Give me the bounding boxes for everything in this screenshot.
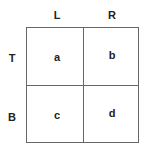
cell-top-left: a	[50, 51, 64, 63]
cell-bottom-right: d	[105, 107, 119, 119]
grid-frame	[26, 27, 139, 143]
column-label-right: R	[105, 9, 119, 21]
column-label-left: L	[50, 9, 64, 21]
row-label-top: T	[5, 52, 19, 64]
row-label-bottom: B	[5, 111, 19, 123]
cell-bottom-left: c	[50, 109, 64, 121]
cell-top-right: b	[105, 49, 119, 61]
horizontal-divider	[27, 85, 138, 86]
